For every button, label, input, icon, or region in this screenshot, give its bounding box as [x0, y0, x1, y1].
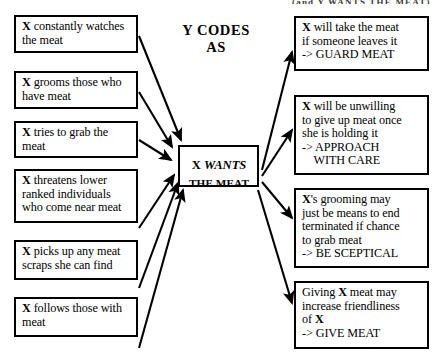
diagram-canvas: (and Y WANTS THE MEAT) Y CODES AS: [0, 0, 442, 363]
prediction-sceptical-line-5: -> BE SCEPTICAL: [302, 247, 422, 261]
evidence-watches-line-1: X constantly watches: [22, 20, 131, 34]
evidence-grooms-line-2: have meat: [22, 90, 131, 104]
center-node-line-1: X WANTS: [192, 158, 247, 172]
prediction-node-guard-meat[interactable]: X will take the meat if someone leaves i…: [294, 16, 429, 71]
evidence-follows-line-2: meat: [22, 316, 131, 330]
arrow-center-to-guard: [262, 52, 292, 170]
evidence-grab-line-1: X tries to grab the: [22, 126, 131, 140]
arrow-center-to-approach: [262, 130, 292, 176]
evidence-node-grab[interactable]: X tries to grab the meat: [14, 121, 138, 158]
evidence-follows-line-1: X follows those with: [22, 302, 131, 316]
heading-line-2: AS: [165, 39, 267, 56]
center-node-wants-meat[interactable]: X WANTS THE MEAT: [178, 145, 259, 187]
evidence-scraps-line-1: X picks up any meat: [22, 245, 131, 259]
evidence-node-threatens[interactable]: X threatens lower ranked individuals who…: [14, 169, 138, 223]
prediction-approach-line-1: X will be unwilling: [302, 100, 422, 114]
evidence-watches-line-2: the meat: [22, 34, 131, 48]
prediction-node-be-sceptical[interactable]: X's grooming may just be means to end te…: [294, 188, 429, 268]
evidence-node-scraps[interactable]: X picks up any meat scraps she can find: [14, 240, 138, 280]
prediction-guard-line-1: X will take the meat: [302, 21, 422, 35]
prediction-guard-line-2: if someone leaves it: [302, 35, 422, 49]
arrow-grooms-to-center: [139, 92, 172, 147]
prediction-give-line-1: Giving X meat may: [302, 286, 422, 300]
prediction-approach-line-3: she is holding it: [302, 127, 422, 141]
arrow-center-to-sceptical: [262, 182, 292, 218]
prediction-give-line-2: increase friendliness: [302, 300, 422, 314]
arrow-scraps-to-center: [139, 183, 178, 288]
evidence-scraps-line-2: scraps she can find: [22, 259, 131, 273]
evidence-node-follows[interactable]: X follows those with meat: [14, 297, 138, 337]
evidence-threatens-line-2: ranked individuals: [22, 188, 131, 202]
prediction-node-approach-with-care[interactable]: X will be unwilling to give up meat once…: [294, 95, 429, 175]
coding-heading: Y CODES AS: [165, 22, 267, 55]
prediction-approach-line-4: -> APPROACH: [302, 141, 422, 155]
center-node-line-2: THE MEAT: [189, 177, 249, 189]
evidence-grab-line-2: meat: [22, 140, 131, 154]
prediction-guard-line-3: -> GUARD MEAT: [302, 48, 422, 62]
prediction-sceptical-line-2: just be means to end: [302, 207, 422, 221]
arrow-center-to-give: [258, 190, 292, 303]
evidence-threatens-line-1: X threatens lower: [22, 174, 131, 188]
evidence-node-watches[interactable]: X constantly watches the meat: [14, 15, 138, 53]
prediction-give-line-3: of X: [302, 313, 422, 327]
prediction-node-give-meat[interactable]: Giving X meat may increase friendliness …: [294, 281, 429, 349]
arrow-threatens-to-center: [139, 175, 174, 228]
arrow-follows-to-center: [139, 190, 183, 348]
top-caption-fragment: (and Y WANTS THE MEAT): [292, 0, 442, 4]
prediction-approach-line-2: to give up meat once: [302, 114, 422, 128]
prediction-sceptical-line-3: terminated if chance: [302, 220, 422, 234]
arrow-grab-to-center: [139, 140, 171, 160]
heading-line-1: Y CODES: [165, 22, 267, 39]
evidence-grooms-line-1: X grooms those who: [22, 76, 131, 90]
prediction-sceptical-line-4: to grab meat: [302, 234, 422, 248]
prediction-sceptical-line-1: X's grooming may: [302, 193, 422, 207]
evidence-threatens-line-3: who come near meat: [22, 201, 131, 215]
prediction-approach-line-5: WITH CARE: [302, 154, 422, 168]
evidence-node-grooms[interactable]: X grooms those who have meat: [14, 71, 138, 109]
prediction-give-line-4: -> GIVE MEAT: [302, 327, 422, 341]
